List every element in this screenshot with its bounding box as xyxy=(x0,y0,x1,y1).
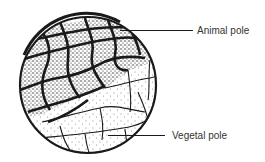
animal-pole-label: Animal pole xyxy=(197,25,249,37)
animal-pole-leader-line xyxy=(120,30,193,31)
vegetal-pole-label: Vegetal pole xyxy=(172,130,227,142)
vegetal-pole-leader-line xyxy=(108,135,165,136)
